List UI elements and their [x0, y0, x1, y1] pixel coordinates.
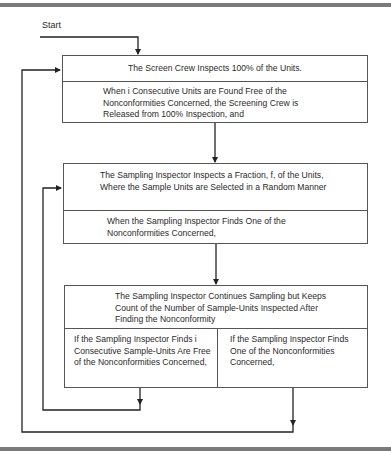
sampling-title: The Sampling Inspector Inspects a Fracti… — [64, 164, 367, 210]
screening-condition: When i Consecutive Units are Found Free … — [63, 81, 367, 122]
screening-title: The Screen Crew Inspects 100% of the Uni… — [63, 56, 367, 81]
counting-branches: If the Sampling Inspector Finds i Consec… — [65, 328, 367, 387]
sampling-box: The Sampling Inspector Inspects a Fracti… — [63, 163, 368, 244]
start-label: Start — [42, 20, 61, 30]
counting-box: The Sampling Inspector Continues Samplin… — [64, 285, 368, 388]
counting-title: The Sampling Inspector Continues Samplin… — [65, 286, 367, 328]
sampling-condition: When the Sampling Inspector Finds One of… — [64, 210, 367, 243]
branch-found: If the Sampling Inspector Finds One of t… — [218, 329, 367, 387]
screening-box: The Screen Crew Inspects 100% of the Uni… — [62, 55, 368, 123]
branch-free: If the Sampling Inspector Finds i Consec… — [65, 329, 218, 387]
